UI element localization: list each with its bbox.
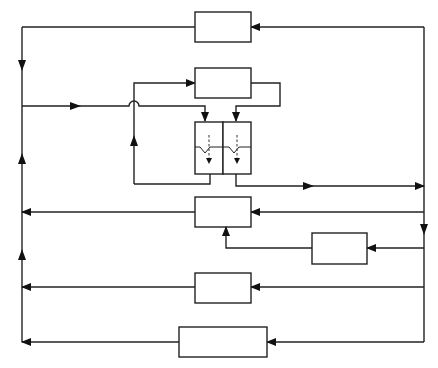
top-block-group bbox=[22, 12, 424, 42]
bottom-block bbox=[179, 327, 267, 357]
left-bus bbox=[18, 27, 26, 342]
arrow-up-icon bbox=[18, 153, 26, 164]
split-block-right bbox=[223, 122, 251, 174]
arrow-up-icon bbox=[130, 135, 138, 146]
middle-block bbox=[195, 197, 251, 227]
arrow-up-icon bbox=[18, 249, 26, 260]
right-bus bbox=[420, 27, 428, 342]
lower-block bbox=[195, 273, 251, 303]
top-block bbox=[195, 12, 251, 42]
arrow-down-icon bbox=[420, 224, 428, 235]
arrow-down-icon bbox=[18, 60, 26, 71]
arrow-right-icon bbox=[303, 182, 314, 190]
arrow-right-icon bbox=[70, 102, 81, 110]
block-diagram bbox=[0, 0, 438, 368]
small-right-block bbox=[312, 233, 367, 264]
bottom-block-group bbox=[22, 327, 424, 357]
split-block bbox=[134, 122, 251, 184]
split-output-line bbox=[236, 174, 424, 190]
lower-block-group bbox=[22, 273, 424, 303]
small-right-block-group bbox=[312, 233, 424, 264]
upper-block bbox=[195, 68, 251, 98]
